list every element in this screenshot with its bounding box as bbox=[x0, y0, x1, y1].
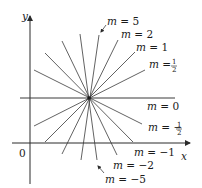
origin-label: 0 bbox=[19, 147, 26, 159]
label-m-neg-5: m = −5 bbox=[105, 173, 146, 185]
svg-text:m = −1: m = −1 bbox=[134, 146, 175, 158]
svg-text:m = −2: m = −2 bbox=[113, 159, 154, 171]
svg-text:2: 2 bbox=[177, 129, 181, 137]
svg-text:2: 2 bbox=[172, 66, 176, 74]
pointer-m-5 bbox=[101, 25, 106, 32]
svg-text:1: 1 bbox=[172, 58, 176, 66]
x-axis-label: x bbox=[181, 150, 187, 162]
label-m-2: m = 2 bbox=[121, 28, 153, 40]
label-m-neg-1: m = −1 bbox=[134, 146, 175, 158]
svg-text:m = 2: m = 2 bbox=[121, 28, 153, 40]
label-m-neg-2: m = −2 bbox=[113, 159, 154, 171]
svg-text:m = 1: m = 1 bbox=[136, 41, 168, 53]
label-m-0: m = 0 bbox=[147, 100, 179, 112]
center-point bbox=[87, 96, 91, 100]
slope-family-diagram: y x 0 m = 5 m = 2 m = 1 m = 1 2 m = 0 m … bbox=[0, 0, 202, 188]
label-m-neg-half: m = − 1 2 bbox=[148, 121, 182, 137]
label-m-1: m = 1 bbox=[136, 41, 168, 53]
label-m-5: m = 5 bbox=[107, 15, 139, 27]
svg-text:m = −5: m = −5 bbox=[105, 173, 146, 185]
y-axis-label: y bbox=[21, 10, 29, 22]
pointer-m-neg-5 bbox=[98, 166, 104, 173]
svg-text:m =: m = bbox=[149, 58, 171, 70]
svg-text:m = 0: m = 0 bbox=[147, 100, 179, 112]
svg-text:m = 5: m = 5 bbox=[107, 15, 139, 27]
svg-text:1: 1 bbox=[177, 121, 181, 129]
label-m-half: m = 1 2 bbox=[149, 58, 177, 74]
